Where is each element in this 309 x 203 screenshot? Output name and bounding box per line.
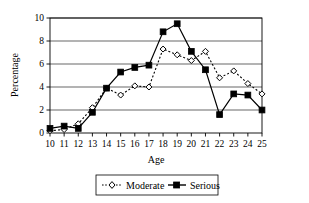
- datapoint-moderate-age-16: [132, 83, 138, 89]
- legend-label-moderate: Moderate: [126, 180, 165, 191]
- chart-legend: Moderate Serious: [96, 175, 220, 195]
- x-tick-label-16: 16: [130, 139, 140, 149]
- plot-area-frame: [50, 18, 262, 133]
- x-tick-label-17: 17: [144, 139, 154, 149]
- x-tick-label-14: 14: [102, 139, 112, 149]
- x-tick-label-24: 24: [243, 139, 253, 149]
- x-tick-label-21: 21: [201, 139, 211, 149]
- y-tick-label-4: 4: [39, 82, 44, 92]
- datapoint-serious-age-22: [217, 112, 223, 118]
- datapoint-serious-age-14: [104, 85, 110, 91]
- x-tick-label-10: 10: [45, 139, 55, 149]
- x-tick-label-20: 20: [187, 139, 197, 149]
- datapoint-serious-age-11: [61, 123, 67, 129]
- y-tick-label-2: 2: [39, 105, 44, 115]
- y-tick-label-0: 0: [39, 128, 44, 138]
- datapoint-serious-age-10: [47, 126, 53, 132]
- datapoint-serious-age-20: [188, 48, 194, 54]
- x-tick-label-11: 11: [60, 139, 69, 149]
- legend-label-serious: Serious: [190, 180, 220, 191]
- series-markers-group: [47, 21, 265, 134]
- x-axis-title: Age: [148, 154, 165, 165]
- y-axis-ticks: [47, 18, 51, 133]
- datapoint-moderate-age-23: [231, 68, 237, 74]
- datapoint-moderate-age-22: [217, 75, 223, 81]
- x-tick-label-18: 18: [158, 139, 168, 149]
- x-axis-ticks: [50, 133, 262, 137]
- datapoint-moderate-age-15: [118, 92, 124, 98]
- datapoint-moderate-age-20: [188, 58, 194, 64]
- datapoint-serious-age-12: [75, 126, 81, 132]
- datapoint-serious-age-21: [203, 67, 209, 73]
- datapoint-serious-age-19: [174, 21, 180, 27]
- y-tick-label-6: 6: [39, 59, 44, 69]
- x-axis-tick-labels: 10111213141516171819202122232425: [45, 139, 267, 149]
- datapoint-moderate-age-17: [146, 84, 152, 90]
- series-line-serious: [50, 24, 262, 129]
- datapoint-serious-age-23: [231, 91, 237, 97]
- y-axis-tick-labels: 0246810: [35, 13, 45, 138]
- datapoint-serious-age-16: [132, 65, 138, 71]
- y-tick-label-8: 8: [39, 36, 44, 46]
- datapoint-serious-age-13: [90, 109, 96, 115]
- x-tick-label-13: 13: [88, 139, 98, 149]
- x-tick-label-15: 15: [116, 139, 126, 149]
- y-tick-label-10: 10: [35, 13, 45, 23]
- datapoint-moderate-age-19: [174, 52, 180, 58]
- x-tick-label-25: 25: [257, 139, 267, 149]
- x-tick-label-22: 22: [215, 139, 225, 149]
- datapoint-serious-age-17: [146, 62, 152, 68]
- datapoint-moderate-age-18: [160, 46, 166, 52]
- x-tick-label-19: 19: [172, 139, 182, 149]
- datapoint-serious-age-25: [259, 107, 265, 113]
- gridlines-group: [50, 18, 262, 110]
- series-lines-group: [50, 24, 262, 131]
- datapoint-serious-age-15: [118, 69, 124, 75]
- datapoint-serious-age-18: [160, 29, 166, 35]
- series-line-moderate: [50, 49, 262, 131]
- y-axis-title: Percentage: [9, 53, 20, 97]
- chart-canvas: 0246810 10111213141516171819202122232425…: [0, 0, 309, 203]
- chart-figure: 0246810 10111213141516171819202122232425…: [0, 0, 309, 203]
- x-tick-label-23: 23: [229, 139, 239, 149]
- x-tick-label-12: 12: [74, 139, 84, 149]
- datapoint-moderate-age-21: [202, 48, 208, 54]
- datapoint-serious-age-24: [245, 92, 251, 98]
